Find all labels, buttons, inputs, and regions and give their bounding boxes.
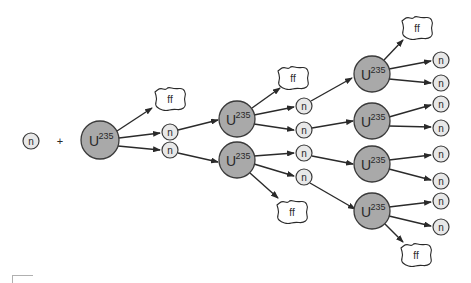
arrow	[178, 120, 218, 130]
arrow	[389, 216, 431, 226]
neutron-label: n	[438, 196, 444, 207]
uranium-235-nucleus: U235	[219, 101, 255, 137]
neutron-label: n	[301, 125, 307, 136]
fission-fragment-cloud: ff	[402, 17, 432, 40]
neutron: n	[296, 169, 312, 185]
fission-fragment-cloud: ff	[155, 88, 185, 111]
arrow	[178, 153, 218, 162]
fission-fragment-cloud: ff	[277, 201, 307, 224]
arrow	[117, 108, 152, 131]
incoming-neutron: n	[23, 133, 39, 149]
neutron-label: n	[301, 148, 307, 159]
mass-number: 235	[98, 131, 113, 141]
arrow	[310, 183, 355, 209]
neutron-label: n	[438, 78, 444, 89]
uranium-235-nucleus: U235	[354, 193, 390, 229]
arrow	[118, 146, 160, 150]
arrow	[384, 40, 403, 60]
neutron: n	[433, 219, 449, 235]
neutron: n	[433, 193, 449, 209]
mass-number: 235	[370, 202, 385, 212]
fission-fragment-label: ff	[167, 94, 173, 105]
neutron-label: n	[438, 99, 444, 110]
uranium-235-nucleus: U235	[219, 142, 255, 178]
arrow	[389, 105, 431, 117]
neutron: n	[433, 146, 449, 162]
fission-fragment-label: ff	[413, 250, 419, 261]
plus-sign: +	[57, 135, 63, 147]
arrow	[254, 153, 294, 156]
mass-number: 235	[370, 65, 385, 75]
arrow	[312, 121, 353, 128]
arrow	[311, 78, 352, 101]
arrow	[385, 224, 403, 242]
fission-fragment-cloud: ff	[278, 67, 308, 90]
neutron: n	[433, 96, 449, 112]
arrow	[312, 156, 353, 164]
neutron: n	[433, 173, 449, 189]
fission-fragment-label: ff	[290, 73, 296, 84]
neutron: n	[433, 75, 449, 91]
neutron: n	[296, 145, 312, 161]
neutron-label: n	[167, 127, 173, 138]
neutron: n	[296, 122, 312, 138]
misc-layer: +	[57, 135, 63, 147]
arrow	[389, 126, 431, 127]
neutron-label: n	[167, 145, 173, 156]
neutron-label: n	[301, 172, 307, 183]
neutron-label: n	[438, 55, 444, 66]
neutron: n	[296, 98, 312, 114]
fission-fragment-label: ff	[289, 207, 295, 218]
arrow	[389, 169, 431, 180]
arrow	[254, 107, 294, 115]
corner-crop-mark	[12, 275, 33, 283]
uranium-235-nucleus: U235	[354, 146, 390, 182]
neutron-label: n	[438, 149, 444, 160]
fission-fragment-label: ff	[414, 23, 420, 34]
arrow	[119, 133, 160, 138]
arrow	[254, 124, 294, 130]
neutron: n	[433, 120, 449, 136]
mass-number: 235	[235, 151, 250, 161]
neutron-label: n	[438, 222, 444, 233]
arrow	[389, 155, 431, 160]
arrow	[389, 202, 431, 207]
arrow	[254, 164, 294, 176]
arrow	[252, 88, 280, 108]
fission-fragment-cloud: ff	[401, 244, 431, 267]
neutron-label: n	[438, 123, 444, 134]
neutron: n	[433, 52, 449, 68]
neutron: n	[162, 124, 178, 140]
arrow	[389, 79, 431, 83]
uranium-235-nucleus: U235	[81, 121, 119, 159]
arrow	[389, 61, 431, 69]
neutron-label: n	[28, 136, 34, 147]
uranium-235-nucleus: U235	[354, 103, 390, 139]
neutron: n	[162, 142, 178, 158]
arrow	[250, 173, 278, 198]
uranium-235-nucleus: U235	[354, 56, 390, 92]
neutron-label: n	[301, 101, 307, 112]
mass-number: 235	[370, 155, 385, 165]
mass-number: 235	[370, 112, 385, 122]
mass-number: 235	[235, 110, 250, 120]
neutron-label: n	[438, 176, 444, 187]
